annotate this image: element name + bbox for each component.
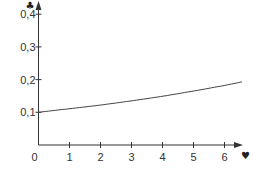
axes xyxy=(36,1,244,148)
x-tick-label: 4 xyxy=(159,151,165,163)
data-series xyxy=(39,82,242,112)
data-line xyxy=(39,82,242,112)
heart-icon: ♥ xyxy=(241,150,250,161)
x-tick-label: 5 xyxy=(190,151,196,163)
club-icon: ♣ xyxy=(26,0,35,11)
y-tick-label: 0,2 xyxy=(20,74,35,86)
x-tick-label: 2 xyxy=(97,151,103,163)
x-tick-label: 1 xyxy=(66,151,72,163)
ticks: 01234560,10,20,30,4 xyxy=(20,8,227,163)
x-tick-label: 6 xyxy=(221,151,227,163)
x-axis-arrow-icon xyxy=(234,142,243,148)
axis-labels: ♥♣ xyxy=(26,0,251,161)
y-tick-label: 0,1 xyxy=(20,106,35,118)
y-tick-label: 0,3 xyxy=(20,41,35,53)
y-axis-arrow-icon xyxy=(36,1,42,10)
x-tick-label: 0 xyxy=(31,151,37,163)
chart-canvas: 01234560,10,20,30,4 ♥♣ xyxy=(0,0,253,169)
x-tick-label: 3 xyxy=(128,151,134,163)
